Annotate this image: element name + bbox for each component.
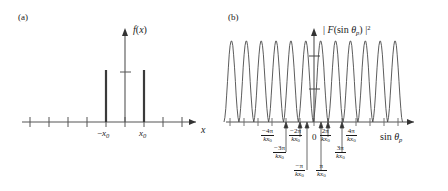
panel-b-y-axis-label: | F(sin θp) |2: [323, 24, 370, 36]
x-axis-arrowhead: [189, 119, 196, 125]
two-panel-figure: (a): [0, 0, 448, 191]
x-axis-arrowhead: [407, 119, 414, 125]
panel-a-plot: f(x) x −x0 x0: [0, 0, 224, 191]
y-axis-arrowhead: [122, 28, 128, 36]
panel-b-tick-label-minus3pi: −3πkx0: [273, 145, 286, 160]
panel-b-tick-label-minus2pi: −2πkx0: [289, 128, 302, 143]
panel-b-tick-label-plus2pi: 2πkx0: [320, 128, 331, 143]
panel-b-plot: | F(sin θp) |2 sin θp 0: [224, 0, 448, 191]
panel-b-y-axis: [309, 28, 320, 122]
panel-b-tick-label-plus3pi: 3πkx0: [335, 145, 346, 160]
panel-b: (b): [224, 0, 448, 191]
panel-a-y-axis-label: f(x): [133, 24, 147, 36]
panel-a-tick-label-negative-x0: −x0: [97, 128, 110, 139]
panel-a-x-axis: [22, 119, 196, 125]
y-axis-arrowhead: [311, 28, 317, 36]
panel-a: (a): [0, 0, 224, 191]
panel-a-y-axis: [120, 28, 131, 122]
panel-b-tick-label-minus4pi: −4πkx0: [261, 128, 274, 143]
panel-b-x-axis-label: sin θp: [380, 131, 403, 143]
panel-a-tick-label-positive-x0: x0: [138, 128, 147, 139]
panel-a-x-axis-label: x: [200, 124, 206, 135]
panel-b-tick-label-zero: 0: [312, 132, 317, 142]
panel-b-tick-label-plus4pi: 4πkx0: [346, 128, 357, 143]
panel-b-fringe-curve: [224, 41, 403, 122]
panel-b-tick-label-pluspi: πkx0: [316, 163, 327, 178]
panel-b-tick-label-minuspi: −πkx0: [294, 163, 305, 178]
